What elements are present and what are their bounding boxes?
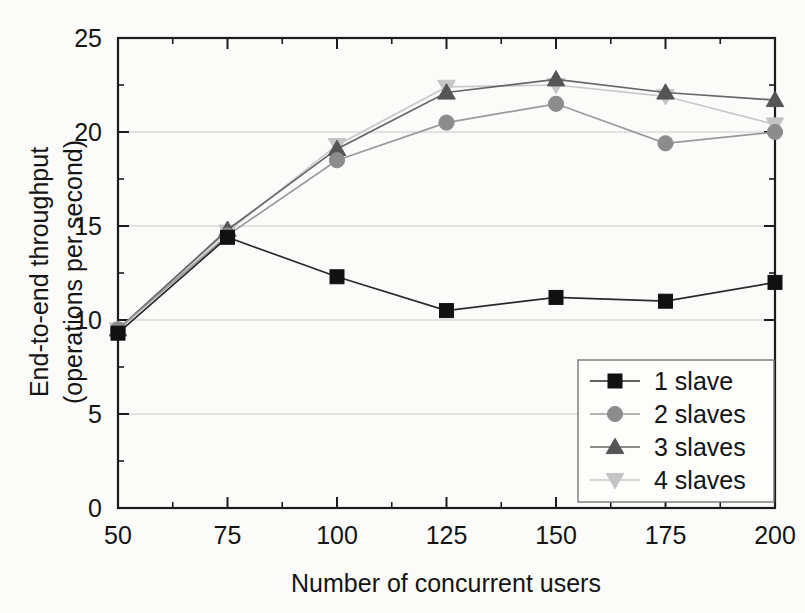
x-tick-label: 175: [645, 521, 687, 549]
x-axis-title: Number of concurrent users: [291, 569, 601, 597]
x-axis-tick-labels: 5075100125150175200: [104, 521, 796, 549]
marker-circle: [658, 136, 673, 151]
y-tick-label: 0: [88, 494, 102, 522]
legend-label: 4 slaves: [654, 466, 746, 494]
figure-container: 5075100125150175200 0510152025 Number of…: [0, 0, 805, 613]
marker-square: [549, 290, 563, 304]
marker-square: [608, 374, 622, 388]
series-line: [118, 104, 775, 330]
marker-square: [768, 275, 782, 289]
marker-circle: [767, 124, 782, 139]
legend-label: 1 slave: [654, 367, 733, 395]
marker-square: [330, 270, 344, 284]
marker-square: [440, 304, 454, 318]
legend-label: 2 slaves: [654, 400, 746, 428]
marker-square: [659, 294, 673, 308]
x-tick-label: 150: [535, 521, 577, 549]
marker-square: [111, 326, 125, 340]
marker-square: [221, 230, 235, 244]
x-tick-label: 75: [214, 521, 242, 549]
x-tick-label: 200: [754, 521, 796, 549]
x-tick-label: 100: [316, 521, 358, 549]
y-axis-title-line2: (operations per second): [59, 140, 87, 404]
legend: 1 slave2 slaves3 slaves4 slaves: [578, 360, 774, 502]
series-3: [109, 71, 784, 336]
line-chart: 5075100125150175200 0510152025 Number of…: [0, 0, 805, 613]
marker-circle: [439, 115, 454, 130]
marker-circle: [329, 153, 344, 168]
x-tick-label: 50: [104, 521, 132, 549]
legend-label: 3 slaves: [654, 433, 746, 461]
y-tick-label: 25: [74, 24, 102, 52]
data-series: [109, 71, 784, 341]
y-axis-title-line1: End-to-end throughput: [25, 147, 53, 397]
x-tick-label: 125: [426, 521, 468, 549]
series-line: [118, 237, 775, 333]
marker-circle: [548, 96, 563, 111]
y-tick-label: 5: [88, 400, 102, 428]
marker-circle: [607, 406, 622, 421]
